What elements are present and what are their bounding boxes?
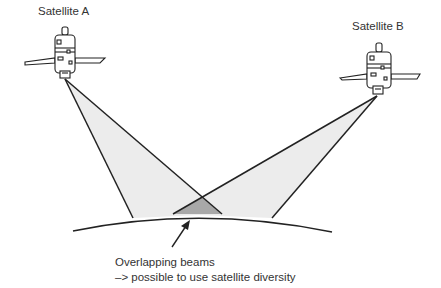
- satellite-b-label: Satellite B: [352, 20, 404, 32]
- diagram-canvas: [0, 0, 441, 288]
- caption-line-1: Overlapping beams: [115, 255, 296, 270]
- earth-surface: [73, 218, 332, 232]
- caption-line-2: –> possible to use satellite diversity: [115, 270, 296, 285]
- satellite-b-icon: [340, 43, 420, 94]
- satellite-a-label: Satellite A: [38, 5, 89, 17]
- pointer-arrow: [172, 220, 190, 247]
- caption: Overlapping beams –> possible to use sat…: [115, 255, 296, 285]
- satellite-diversity-diagram: Satellite A Satellite B Overlapping beam…: [0, 0, 441, 288]
- satellite-a-icon: [25, 27, 105, 78]
